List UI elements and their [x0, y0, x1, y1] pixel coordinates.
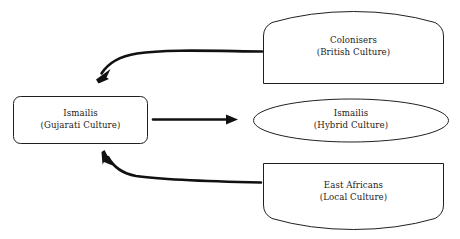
- node-label-east-africans-primary: East Africans: [263, 180, 444, 192]
- node-label-colonisers: Colonisers (British Culture): [263, 35, 444, 58]
- node-label-ismailis-hybrid-secondary: (Hybrid Culture): [253, 120, 449, 132]
- node-label-ismailis-hybrid-primary: Ismailis: [253, 108, 449, 120]
- connector-arrowhead-east-africans-to-ismailis: [102, 150, 113, 166]
- diagram-canvas: Colonisers (British Culture) Ismailis (G…: [0, 0, 460, 239]
- node-label-colonisers-primary: Colonisers: [263, 35, 444, 47]
- node-label-colonisers-secondary: (British Culture): [263, 47, 444, 59]
- node-label-ismailis-source-secondary: (Gujarati Culture): [13, 120, 148, 132]
- connector-arrowhead-ismailis-to-hybrid: [226, 115, 238, 125]
- connector-colonisers-to-ismailis[interactable]: [102, 51, 263, 74]
- node-label-east-africans: East Africans (Local Culture): [263, 180, 444, 203]
- node-label-east-africans-secondary: (Local Culture): [263, 192, 444, 204]
- node-label-ismailis-source-primary: Ismailis: [13, 108, 148, 120]
- node-label-ismailis-source: Ismailis (Gujarati Culture): [13, 108, 148, 131]
- node-label-ismailis-hybrid: Ismailis (Hybrid Culture): [253, 108, 449, 131]
- connector-east-africans-to-ismailis[interactable]: [108, 157, 261, 183]
